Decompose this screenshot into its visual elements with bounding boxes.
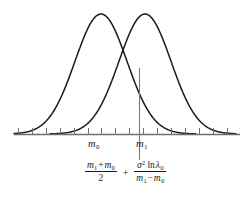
gaussian-curve-m1: [50, 14, 236, 134]
left-fraction-denominator: 2: [96, 172, 105, 183]
numerator-sigma-exponent: 2: [142, 159, 145, 166]
numerator-plus-operator: +: [97, 160, 104, 170]
numerator-m0-symbol: m: [105, 160, 112, 170]
right-fraction-denominator: m1−m0: [134, 172, 166, 183]
denominator-m0-symbol: m: [154, 173, 161, 183]
formula-plus-operator: +: [122, 167, 130, 178]
numerator-m1-symbol: m: [87, 160, 94, 170]
curves-group: [14, 14, 236, 134]
denominator-m1-subscript: 1: [143, 177, 146, 184]
denominator-minus-operator: −: [146, 173, 153, 183]
left-fraction: m1+m0 2: [85, 160, 117, 183]
axis-label-m0-symbol: m: [88, 138, 96, 149]
left-fraction-numerator: m1+m0: [85, 160, 117, 171]
numerator-ln-function: ln: [147, 160, 155, 170]
numerator-m0-subscript: 0: [112, 164, 115, 171]
numerator-lambda-subscript: 0: [160, 164, 163, 171]
right-fraction-numerator: σ2 lnλ0: [135, 160, 165, 171]
axis-label-m0: m0: [88, 139, 99, 150]
axis-label-m1-subscript: 1: [144, 143, 148, 151]
numerator-m1-subscript: 1: [94, 164, 97, 171]
axis-label-m1: m1: [136, 139, 147, 150]
axis-label-m1-symbol: m: [136, 138, 144, 149]
axis-ticks-group: [19, 128, 228, 134]
denominator-m0-subscript: 0: [161, 177, 164, 184]
gaussian-threshold-figure: m0 m1 m1+m0 2 + σ2 lnλ0 m1−m0: [0, 0, 251, 204]
axis-label-m0-subscript: 0: [96, 143, 100, 151]
right-fraction: σ2 lnλ0 m1−m0: [134, 160, 166, 183]
threshold-formula: m1+m0 2 + σ2 lnλ0 m1−m0: [0, 160, 251, 183]
gaussian-curve-m0: [14, 14, 196, 134]
